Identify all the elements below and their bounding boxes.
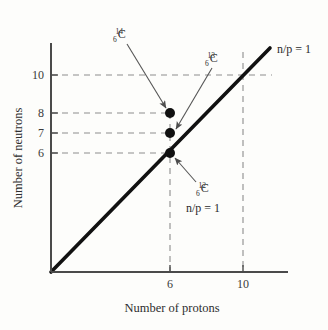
ytick-label-10: 10 bbox=[32, 68, 44, 82]
label-c14: 146C bbox=[113, 27, 126, 44]
data-points bbox=[165, 108, 175, 158]
chart-canvas: 10 8 7 6 6 10 Number of neutrons Number … bbox=[0, 0, 328, 330]
xtick-label-6: 6 bbox=[167, 277, 173, 291]
ytick-label-8: 8 bbox=[38, 106, 44, 120]
xtick-label-10: 10 bbox=[237, 277, 249, 291]
arrow-c14-to-point bbox=[127, 44, 166, 108]
isotope-neutron-proton-chart: 10 8 7 6 6 10 Number of neutrons Number … bbox=[0, 0, 328, 330]
label-c12: 126C bbox=[196, 181, 209, 198]
y-axis-title: Number of neutrons bbox=[11, 108, 25, 209]
label-c12-symbol: C bbox=[201, 181, 209, 195]
arrow-c12-to-point bbox=[175, 158, 196, 182]
data-point-c13 bbox=[165, 128, 175, 138]
label-c13-symbol: C bbox=[210, 51, 218, 65]
label-np-ratio-top: n/p = 1 bbox=[277, 42, 311, 56]
arrow-c13-to-point bbox=[176, 68, 212, 129]
label-c14-symbol: C bbox=[118, 27, 126, 41]
data-point-c14 bbox=[165, 108, 175, 118]
ytick-label-7: 7 bbox=[38, 126, 44, 140]
label-np-ratio-bottom: n/p = 1 bbox=[186, 201, 220, 215]
reference-line-np-equals-1 bbox=[51, 48, 270, 272]
label-c12-atomic-number: 6 bbox=[196, 189, 200, 198]
label-c14-atomic-number: 6 bbox=[113, 35, 117, 44]
label-c13-atomic-number: 6 bbox=[205, 59, 209, 68]
label-c13: 136C bbox=[205, 51, 218, 68]
ytick-label-6: 6 bbox=[38, 146, 44, 160]
x-axis-title: Number of protons bbox=[124, 301, 219, 315]
data-point-c12 bbox=[165, 148, 175, 158]
